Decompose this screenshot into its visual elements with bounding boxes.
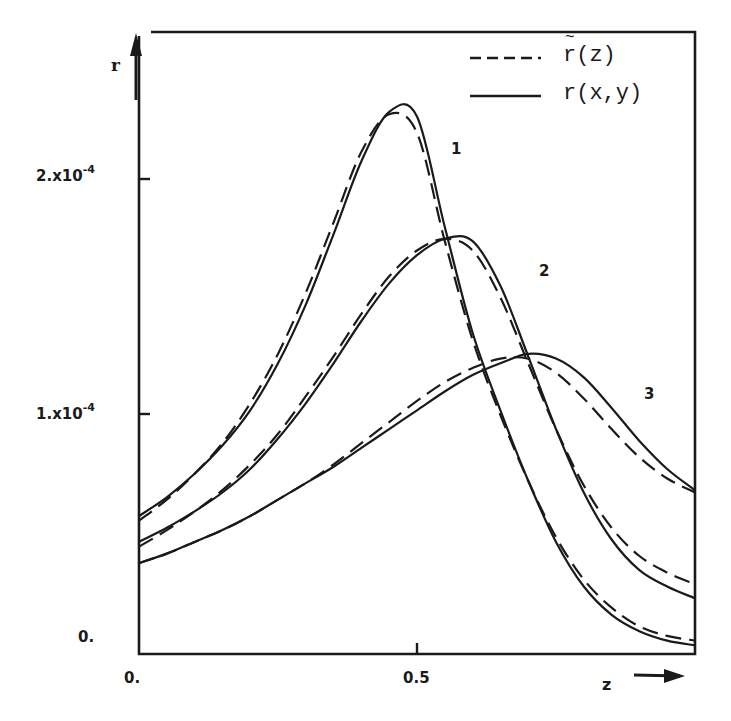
y-tick-label-exp: -4 [83, 401, 95, 414]
curve-label-3: 3 [644, 385, 654, 403]
y-tick-label-exp: -4 [83, 163, 95, 176]
curve-3-solid [139, 354, 695, 563]
legend-solid-label: r(x,y) [563, 81, 642, 106]
plot-frame [139, 32, 695, 654]
y-tick-label-base: 2.x10 [36, 167, 83, 185]
legend-dashed-label: r(z) [563, 43, 616, 68]
x-tick-label-0.5: 0.5 [403, 669, 430, 687]
y-tick-label-0: 0. [78, 628, 94, 646]
y-axis-label: r [111, 55, 120, 75]
curve-label-1: 1 [451, 140, 461, 158]
curves-group [139, 104, 695, 645]
x-tick-label-0: 0. [124, 669, 140, 687]
curve-1-dashed [139, 113, 695, 641]
chart-plot-area [0, 0, 731, 721]
curve-label-2: 2 [539, 262, 549, 280]
curve-2-solid [139, 236, 695, 598]
curve-3-dashed [139, 357, 695, 563]
y-tick-label-1e-4: 1.x10-4 [36, 403, 95, 423]
x-axis-arrow-icon [634, 669, 685, 683]
curve-1-solid [139, 104, 695, 645]
y-tick-label-2e-4: 2.x10-4 [36, 165, 95, 185]
y-tick-label-base: 1.x10 [36, 405, 83, 423]
x-axis-label: z [602, 675, 611, 694]
legend-dashed-text: r(z) [563, 43, 616, 68]
